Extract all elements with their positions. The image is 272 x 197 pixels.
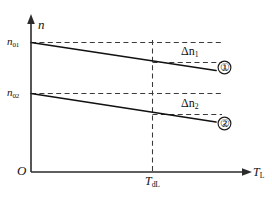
tdl-base: T <box>145 174 152 188</box>
delta-n2-subscript: 2 <box>195 102 199 111</box>
y-axis-arrow-icon <box>27 14 35 24</box>
tdl-subscript: dL <box>152 180 160 189</box>
n01-subscript: 01 <box>13 41 20 49</box>
x-axis-label: TL <box>253 166 264 178</box>
speed-torque-characteristic-figure: n n01 n02 O TL TdL Δn1 Δn2 ① ② <box>0 0 272 197</box>
x-axis-label-base: T <box>253 165 260 179</box>
y-axis-label: n <box>38 18 45 31</box>
x-axis-label-subscript: L <box>260 171 265 180</box>
x-axis-arrow-icon <box>242 168 252 176</box>
n02-base: n <box>7 86 13 98</box>
n02-subscript: 02 <box>13 92 20 100</box>
delta-n2-base: Δn <box>181 96 195 110</box>
delta-n1-subscript: 1 <box>195 50 199 59</box>
origin-label: O <box>17 164 26 177</box>
y-intercept-label-n01: n01 <box>7 36 19 47</box>
delta-n1-base: Δn <box>181 44 195 58</box>
curve-1-marker-label: ① <box>218 61 231 74</box>
y-intercept-label-n02: n02 <box>7 87 19 98</box>
delta-n1-label: Δn1 <box>181 45 198 57</box>
n01-base: n <box>7 35 13 47</box>
axes-group <box>27 14 252 176</box>
tdl-tick-label: TdL <box>145 175 160 187</box>
delta-n2-label: Δn2 <box>181 97 198 109</box>
curve-2-marker-label: ② <box>218 117 231 130</box>
